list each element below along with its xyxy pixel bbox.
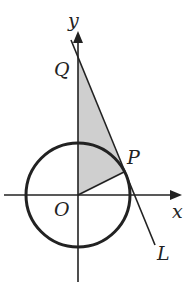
- x-axis-label: x: [172, 200, 183, 222]
- y-axis-arrow-icon: [73, 31, 83, 43]
- coordinate-diagram: y x O Q P L: [0, 0, 184, 286]
- x-axis-arrow-icon: [170, 190, 182, 200]
- shaded-region: [78, 57, 124, 195]
- origin-label: O: [54, 198, 70, 220]
- point-q-label: Q: [54, 58, 70, 80]
- y-axis-label: y: [67, 9, 79, 31]
- line-l-label: L: [156, 242, 170, 264]
- point-p-label: P: [126, 146, 141, 168]
